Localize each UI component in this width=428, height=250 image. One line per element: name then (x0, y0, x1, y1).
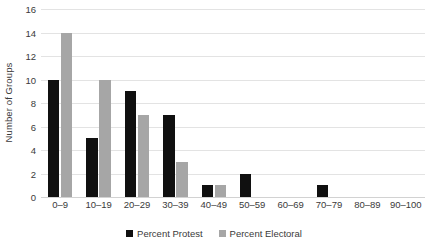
y-axis-tick-labels: 0246810121416 (18, 0, 40, 205)
x-axis-tick-labels: 0–910–1920–2930–3940–4950–5960–6970–7980… (41, 199, 425, 215)
y-axis-tick: 4 (31, 145, 36, 156)
legend-swatch-icon (219, 230, 226, 237)
legend-label: Percent Electoral (230, 228, 302, 239)
bar-group (195, 9, 233, 197)
y-axis-tick: 10 (25, 74, 36, 85)
bar-group (156, 9, 194, 197)
y-axis-tick: 2 (31, 168, 36, 179)
bar-group (41, 9, 79, 197)
y-axis-title: Number of Groups (0, 0, 18, 205)
y-axis-tick: 0 (31, 192, 36, 203)
bar (176, 162, 188, 197)
x-axis-tick: 70–79 (316, 199, 342, 210)
bar-chart: Number of Groups 0246810121416 0–910–192… (0, 0, 428, 250)
x-axis-tick: 40–49 (201, 199, 227, 210)
plot-area (41, 9, 425, 197)
x-axis-tick: 20–29 (124, 199, 150, 210)
bar (61, 33, 73, 198)
x-axis-tick: 10–19 (85, 199, 111, 210)
bar-group (387, 9, 425, 197)
legend-item[interactable]: Percent Protest (126, 228, 202, 239)
bar-group (233, 9, 271, 197)
bar (215, 185, 227, 197)
x-axis-tick: 90–100 (390, 199, 422, 210)
bar (317, 185, 329, 197)
bar (48, 80, 60, 198)
bar-group (348, 9, 386, 197)
legend-label: Percent Protest (137, 228, 202, 239)
bars-layer (41, 9, 425, 197)
legend-item[interactable]: Percent Electoral (219, 228, 302, 239)
y-axis-title-label: Number of Groups (4, 63, 15, 143)
axis-baseline (41, 197, 425, 198)
x-axis-tick: 30–39 (162, 199, 188, 210)
y-axis-tick: 8 (31, 98, 36, 109)
chart-legend: Percent ProtestPercent Electoral (0, 228, 428, 239)
bar-group (310, 9, 348, 197)
bar (99, 80, 111, 198)
x-axis-tick: 50–59 (239, 199, 265, 210)
y-axis-tick: 16 (25, 4, 36, 15)
bar-group (271, 9, 309, 197)
bar (86, 138, 98, 197)
bar (125, 91, 137, 197)
bar (138, 115, 150, 197)
bar-group (79, 9, 117, 197)
y-axis-tick: 6 (31, 121, 36, 132)
bar (202, 185, 214, 197)
legend-swatch-icon (126, 230, 133, 237)
y-axis-tick: 14 (25, 27, 36, 38)
x-axis-tick: 0–9 (52, 199, 68, 210)
bar (240, 174, 252, 198)
y-axis-tick: 12 (25, 51, 36, 62)
bar-group (118, 9, 156, 197)
x-axis-tick: 60–69 (277, 199, 303, 210)
bar (163, 115, 175, 197)
x-axis-tick: 80–89 (354, 199, 380, 210)
